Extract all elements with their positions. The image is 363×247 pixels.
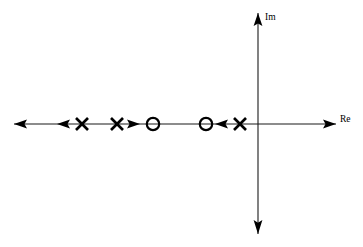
imaginary-axis-label: Im — [265, 12, 276, 22]
pole-zero-plot-figure: Im Re — [0, 0, 363, 247]
complex-plane-diagram: Im Re — [0, 0, 363, 247]
real-axis-label: Re — [340, 114, 351, 124]
